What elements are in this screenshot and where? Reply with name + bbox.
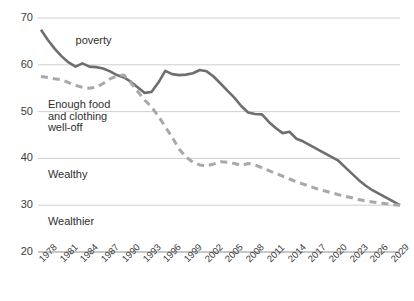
y-axis-tick-label: 40 [9, 152, 33, 163]
chart-annotation: Enough food and clothing [48, 98, 110, 122]
chart-container: 706050403020 197819811984198719901993199… [0, 0, 414, 301]
series-line-dashed-series [41, 75, 400, 205]
chart-annotation: well-off [48, 121, 83, 133]
y-axis-tick-label: 60 [9, 59, 33, 70]
chart-annotation: Wealthier [48, 215, 94, 227]
y-axis-tick-label: 50 [9, 106, 33, 117]
y-axis-tick-label: 20 [9, 246, 33, 257]
chart-annotation: poverty [76, 34, 112, 46]
y-axis-tick-label: 30 [9, 199, 33, 210]
chart-annotation: Wealthy [48, 168, 88, 180]
y-axis-tick-label: 70 [9, 12, 33, 23]
